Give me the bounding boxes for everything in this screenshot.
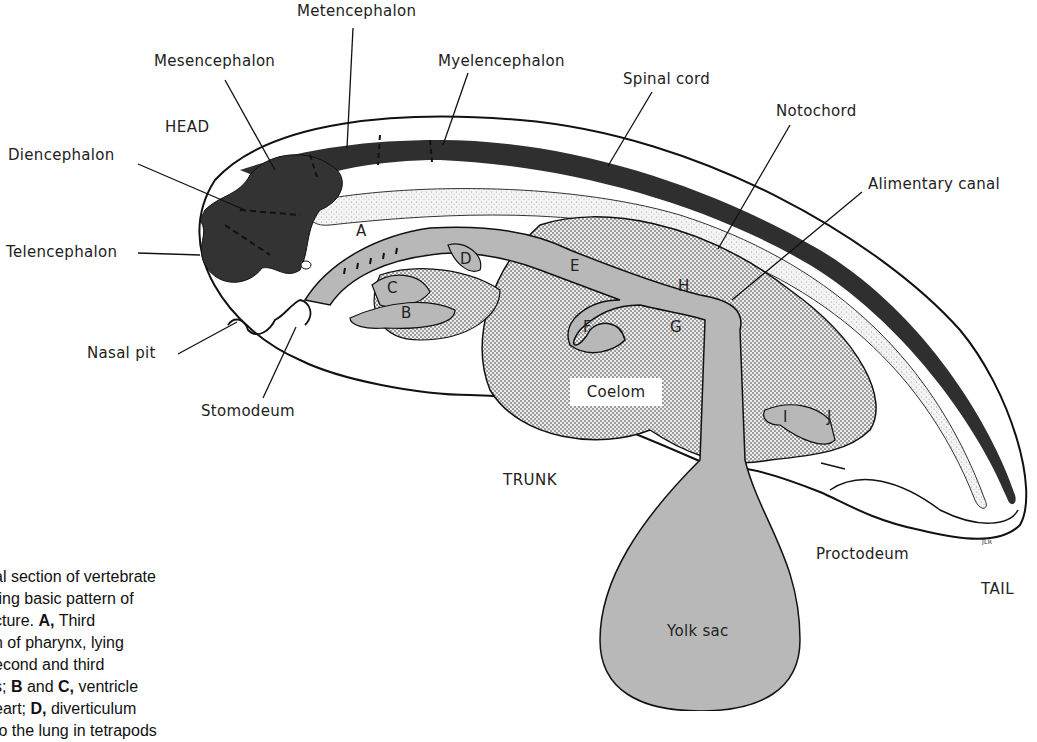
- label-telencephalon: Telencephalon: [6, 243, 117, 261]
- label-coelom: Coelom: [587, 383, 646, 401]
- region-head: HEAD: [165, 118, 210, 136]
- label-stomodeum: Stomodeum: [201, 402, 295, 420]
- label-notochord: Notochord: [776, 102, 857, 120]
- artist-signature: JLR: [982, 538, 992, 545]
- caption-line: eart; D, diverticulum: [0, 698, 294, 720]
- marker-d: D: [460, 250, 472, 268]
- label-nasal-pit: Nasal pit: [87, 344, 156, 362]
- caption-line: to the lung in tetrapods: [0, 720, 294, 742]
- label-myelencephalon: Myelencephalon: [438, 52, 565, 70]
- marker-h: H: [678, 277, 689, 295]
- coelom-label-box: Coelom: [570, 378, 662, 406]
- region-tail: TAIL: [981, 580, 1014, 598]
- label-mesencephalon: Mesencephalon: [154, 52, 275, 70]
- label-diencephalon: Diencephalon: [8, 146, 115, 164]
- label-yolk-sac: Yolk sac: [667, 622, 729, 640]
- caption-line: s; B and C, ventricle: [0, 676, 294, 698]
- marker-f: F: [583, 318, 592, 336]
- caption-line: ting basic pattern of: [0, 588, 294, 610]
- marker-c: C: [387, 279, 397, 297]
- marker-g: G: [670, 318, 682, 336]
- label-spinal-cord: Spinal cord: [623, 70, 710, 88]
- caption-line: h of pharynx, lying: [0, 632, 294, 654]
- label-proctodeum: Proctodeum: [816, 545, 909, 563]
- figure-caption: al section of vertebrate ting basic patt…: [0, 566, 294, 742]
- label-metencephalon: Metencephalon: [297, 2, 416, 20]
- marker-a: A: [356, 222, 366, 240]
- label-alimentary-canal: Alimentary canal: [868, 175, 1000, 193]
- marker-b: B: [401, 304, 411, 322]
- caption-line: cture. A, Third: [0, 610, 294, 632]
- region-trunk: TRUNK: [503, 471, 557, 489]
- marker-j: J: [827, 408, 831, 426]
- caption-line: al section of vertebrate: [0, 566, 294, 588]
- caption-line: econd and third: [0, 654, 294, 676]
- marker-i: I: [783, 408, 787, 426]
- marker-e: E: [570, 257, 579, 275]
